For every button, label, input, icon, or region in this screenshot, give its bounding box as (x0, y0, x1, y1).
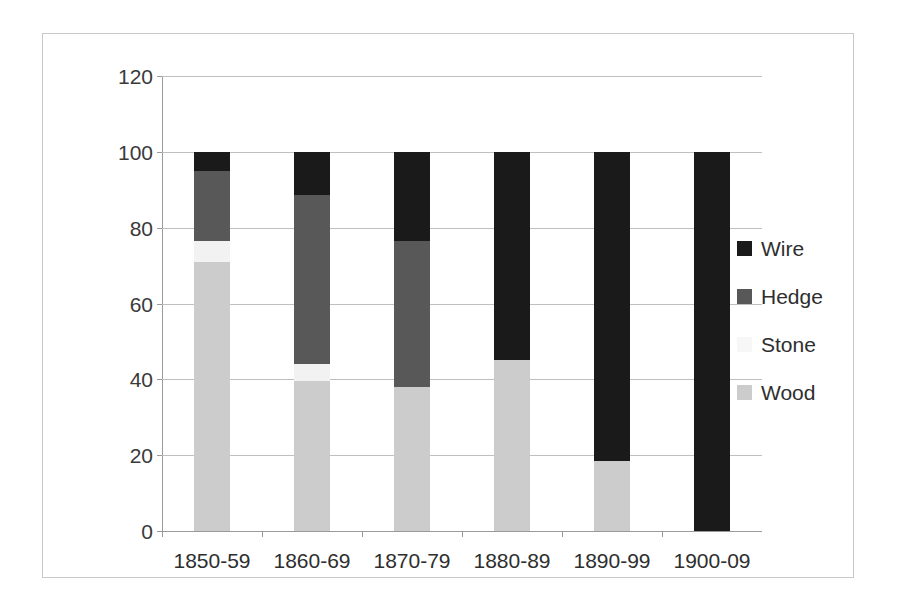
gridline (162, 152, 762, 153)
bar-segment-wire[interactable] (594, 152, 630, 461)
gridline (162, 455, 762, 456)
bar-segment-wood[interactable] (494, 360, 530, 531)
bar-segment-wire[interactable] (294, 152, 330, 196)
bar-segment-wood[interactable] (394, 387, 430, 531)
bar-segment-wire[interactable] (494, 152, 530, 361)
legend-label: Stone (761, 334, 816, 355)
chart-legend: WireHedgeStoneWood (737, 224, 852, 416)
legend-swatch-icon (737, 337, 752, 352)
x-tick-mark (562, 531, 563, 537)
bar-segment-hedge[interactable] (394, 241, 430, 387)
legend-item-stone[interactable]: Stone (737, 320, 852, 368)
legend-label: Hedge (761, 286, 823, 307)
bar-1860-69[interactable] (294, 76, 330, 531)
y-tick-label: 80 (93, 217, 153, 238)
gridline (162, 228, 762, 229)
legend-label: Wood (761, 382, 815, 403)
y-tick-label: 40 (93, 369, 153, 390)
legend-label: Wire (761, 238, 804, 259)
bar-1870-79[interactable] (394, 76, 430, 531)
y-tick-mark (157, 76, 162, 77)
bar-1890-99[interactable] (594, 76, 630, 531)
gridline (162, 304, 762, 305)
legend-swatch-icon (737, 385, 752, 400)
bar-segment-hedge[interactable] (194, 171, 230, 241)
bar-segment-stone[interactable] (194, 241, 230, 262)
y-tick-mark (157, 304, 162, 305)
x-tick-mark (362, 531, 363, 537)
x-tick-mark (162, 531, 163, 537)
bar-segment-stone[interactable] (294, 364, 330, 381)
y-tick-label: 100 (93, 141, 153, 162)
x-tick-label: 1900-09 (652, 550, 772, 571)
legend-swatch-icon (737, 241, 752, 256)
bar-segment-wire[interactable] (394, 152, 430, 241)
y-axis-tick-labels: 020406080100120 (83, 76, 153, 531)
y-tick-mark (157, 455, 162, 456)
bar-1900-09[interactable] (694, 76, 730, 531)
y-tick-label: 0 (93, 521, 153, 542)
y-tick-label: 120 (93, 66, 153, 87)
gridline (162, 76, 762, 77)
y-tick-label: 20 (93, 445, 153, 466)
bar-1880-89[interactable] (494, 76, 530, 531)
y-tick-mark (157, 379, 162, 380)
legend-item-wire[interactable]: Wire (737, 224, 852, 272)
plot-area: 1850-591860-691870-791880-891890-991900-… (162, 76, 762, 531)
x-tick-mark (462, 531, 463, 537)
legend-item-wood[interactable]: Wood (737, 368, 852, 416)
bar-segment-wire[interactable] (194, 152, 230, 171)
bar-1850-59[interactable] (194, 76, 230, 531)
bar-segment-wood[interactable] (294, 381, 330, 531)
legend-swatch-icon (737, 289, 752, 304)
bar-segment-wood[interactable] (194, 262, 230, 531)
bar-segment-wood[interactable] (594, 461, 630, 531)
y-tick-mark (157, 152, 162, 153)
y-tick-label: 60 (93, 293, 153, 314)
legend-item-hedge[interactable]: Hedge (737, 272, 852, 320)
x-tick-mark (662, 531, 663, 537)
gridline (162, 379, 762, 380)
bar-segment-hedge[interactable] (294, 195, 330, 364)
chart-figure-frame: 020406080100120 1850-591860-691870-79188… (42, 33, 854, 578)
bar-segment-wire[interactable] (694, 152, 730, 531)
x-tick-mark (262, 531, 263, 537)
y-tick-mark (157, 228, 162, 229)
